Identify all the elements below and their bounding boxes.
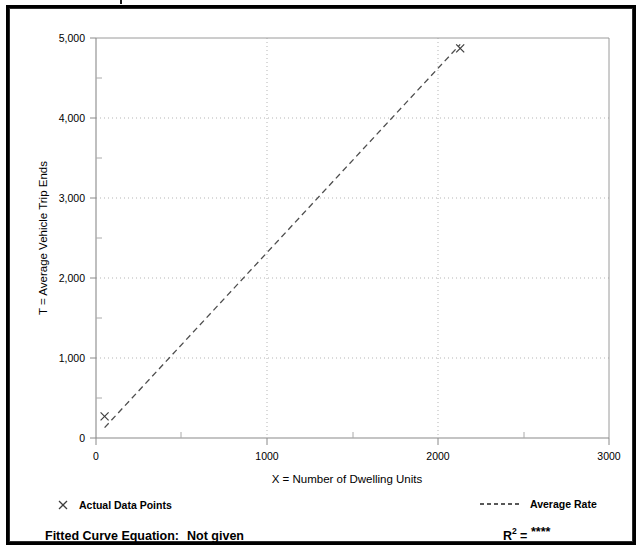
y-tick-labels: 5,000 4,000 3,000 2,000 1,000 0 <box>59 32 85 444</box>
y-tick-label-2000: 2,000 <box>59 272 85 284</box>
legend-actual-data-points: Actual Data Points <box>59 499 172 511</box>
r-squared-equals: = <box>520 529 527 542</box>
x-tick-labels: 0 1000 2000 3000 <box>93 450 621 462</box>
x-tick-label-3000: 3000 <box>597 450 621 462</box>
chart-page: 5,000 4,000 3,000 2,000 1,000 0 0 1000 2… <box>0 0 642 551</box>
top-edge-artifact <box>120 0 122 4</box>
y-tick-label-3000: 3,000 <box>59 192 85 204</box>
plot-area-frame <box>96 38 609 438</box>
data-point-marker <box>101 412 109 420</box>
y-tick-label-0: 0 <box>79 432 85 444</box>
data-point-marker <box>456 44 464 52</box>
y-tick-label-5000: 5,000 <box>59 32 85 44</box>
x-tick-label-1000: 1000 <box>255 450 279 462</box>
legend-average-rate: Average Rate <box>480 498 597 510</box>
grid-lines <box>96 38 609 438</box>
footer-r-squared: R 2 = **** <box>503 525 551 542</box>
r-squared-value: **** <box>531 525 551 539</box>
y-tick-label-4000: 4,000 <box>59 112 85 124</box>
r-squared-exponent: 2 <box>512 526 517 536</box>
fitted-curve-value-text: Not given <box>187 529 244 542</box>
legend-label-average-rate: Average Rate <box>530 498 597 510</box>
fitted-curve-label-text: Fitted Curve Equation: <box>45 529 179 542</box>
chart-figure: 5,000 4,000 3,000 2,000 1,000 0 0 1000 2… <box>9 8 633 542</box>
r-squared-base: R <box>503 529 512 542</box>
x-axis-title: X = Number of Dwelling Units <box>272 473 423 485</box>
y-axis-title: T = Average Vehicle Trip Ends <box>37 161 49 315</box>
x-tick-label-0: 0 <box>93 450 99 462</box>
average-rate-trend-line <box>105 44 461 427</box>
x-tick-label-2000: 2000 <box>426 450 450 462</box>
x-marker-icon <box>59 501 67 509</box>
y-tick-label-1000: 1,000 <box>59 352 85 364</box>
legend-label-actual-data-points: Actual Data Points <box>79 499 172 511</box>
fitted-curve-label: Fitted Curve Equation:Not given <box>45 529 244 542</box>
footer-fitted-curve-equation: Fitted Curve Equation:Not given <box>45 529 244 542</box>
